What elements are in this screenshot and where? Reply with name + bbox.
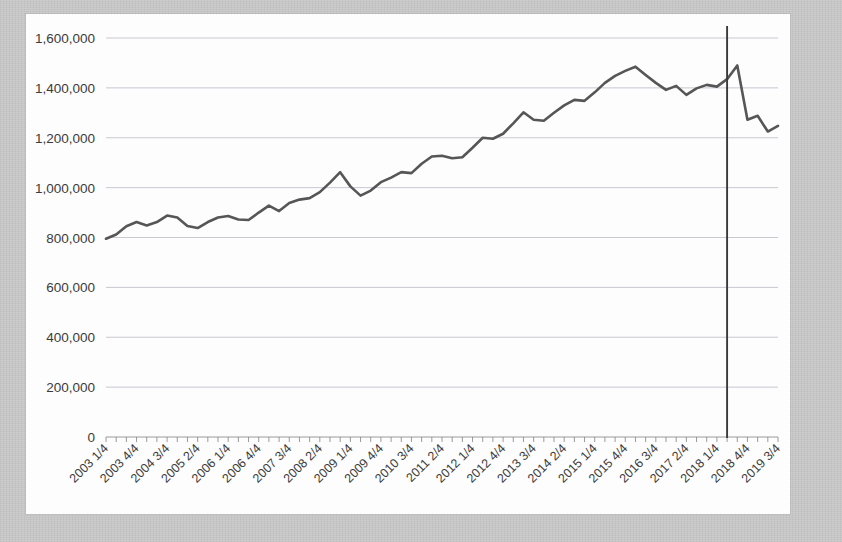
line-chart: 0200,000400,000600,000800,0001,000,0001,… <box>26 14 790 514</box>
series-line-1 <box>106 65 778 238</box>
y-axis-tick-label: 1,200,000 <box>35 131 95 146</box>
y-axis-tick-label: 1,000,000 <box>35 181 95 196</box>
y-axis-tick-label: 0 <box>87 430 95 445</box>
chart-canvas: 0200,000400,000600,000800,0001,000,0001,… <box>26 14 790 514</box>
y-axis-tick-label: 200,000 <box>46 380 95 395</box>
y-axis-tick-label: 1,400,000 <box>35 81 95 96</box>
y-axis-tick-label: 400,000 <box>46 330 95 345</box>
y-axis-tick-label: 600,000 <box>46 280 95 295</box>
chart-paper-area: 0200,000400,000600,000800,0001,000,0001,… <box>26 14 790 514</box>
y-axis-tick-labels: 0200,000400,000600,000800,0001,000,0001,… <box>35 31 95 445</box>
y-axis-tick-label: 800,000 <box>46 231 95 246</box>
x-axis-tick-marks <box>106 437 778 442</box>
gridlines <box>106 38 778 437</box>
y-axis-tick-label: 1,600,000 <box>35 31 95 46</box>
x-axis-tick-labels: 2003 1/42003 4/42004 3/42005 2/42006 1/4… <box>67 441 783 485</box>
